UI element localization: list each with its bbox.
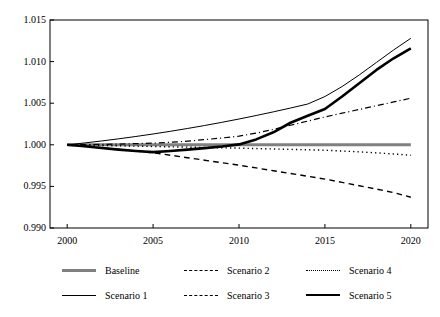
x-axis-tick-label: 2015 <box>302 236 348 246</box>
legend-swatch-scenario-3-icon <box>184 291 218 301</box>
series-line-scenario-3 <box>67 145 411 197</box>
legend-item-scenario-5[interactable]: Scenario 5 <box>306 290 428 301</box>
legend-label-scenario-5: Scenario 5 <box>349 290 392 301</box>
legend-item-scenario-3[interactable]: Scenario 3 <box>184 290 306 301</box>
legend-item-scenario-4[interactable]: Scenario 4 <box>306 265 428 276</box>
axes-frame <box>50 20 428 228</box>
legend-swatch-scenario-5-icon <box>306 291 340 301</box>
y-axis-tick-label: 1.010 <box>0 57 46 67</box>
legend-label-scenario-4: Scenario 4 <box>349 265 392 276</box>
legend-row: Baseline Scenario 2 Scenario 4 <box>62 258 430 283</box>
chart-legend: Baseline Scenario 2 Scenario 4 Scenario … <box>62 258 430 310</box>
y-axis-tick-label: 0.995 <box>0 181 46 191</box>
x-axis-tick-label: 2005 <box>130 236 176 246</box>
series-line-scenario-1 <box>67 38 411 145</box>
x-axis-tick-label: 2020 <box>388 236 434 246</box>
legend-swatch-baseline-icon <box>62 266 96 276</box>
legend-label-scenario-1: Scenario 1 <box>105 290 148 301</box>
series-line-scenario-2 <box>67 98 411 145</box>
y-axis-tick-label: 0.990 <box>0 223 46 233</box>
legend-item-scenario-2[interactable]: Scenario 2 <box>184 265 306 276</box>
x-axis-tick-label: 2010 <box>216 236 262 246</box>
y-axis-tick-label: 1.015 <box>0 15 46 25</box>
legend-row: Scenario 1 Scenario 3 Scenario 5 <box>62 283 430 308</box>
legend-swatch-scenario-2-icon <box>184 266 218 276</box>
legend-item-scenario-1[interactable]: Scenario 1 <box>62 290 184 301</box>
x-axis-tick-label: 2000 <box>44 236 90 246</box>
y-axis-tick-label: 1.000 <box>0 140 46 150</box>
legend-label-scenario-2: Scenario 2 <box>227 265 270 276</box>
tick-marks <box>50 20 411 228</box>
chart-container: 0.9900.9951.0001.0051.0101.015 200020052… <box>0 0 440 317</box>
series-lines <box>67 38 411 197</box>
legend-label-scenario-3: Scenario 3 <box>227 290 270 301</box>
legend-label-baseline: Baseline <box>105 265 139 276</box>
legend-swatch-scenario-1-icon <box>62 291 96 301</box>
y-axis-tick-label: 1.005 <box>0 98 46 108</box>
legend-swatch-scenario-4-icon <box>306 266 340 276</box>
legend-item-baseline[interactable]: Baseline <box>62 265 184 276</box>
